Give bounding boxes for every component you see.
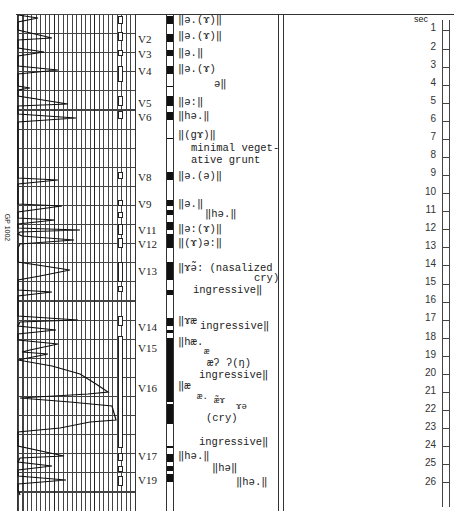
scale-tick-label: 3 bbox=[418, 59, 436, 70]
recording-id-label: GP 1002 bbox=[4, 214, 11, 242]
transcription: ‖ə.‖ bbox=[178, 48, 203, 59]
scale-tick-label: 22 bbox=[418, 403, 436, 414]
transcription: ‖ɤæ bbox=[178, 316, 197, 327]
time-scale bbox=[442, 20, 450, 507]
event-box bbox=[118, 262, 123, 282]
transcription: ‖ə.(ə)‖ bbox=[178, 171, 222, 182]
vocalization-label: V13 bbox=[138, 265, 157, 277]
vocalization-label: V12 bbox=[138, 238, 157, 250]
event-box bbox=[118, 466, 123, 472]
event-box bbox=[118, 50, 123, 56]
scale-tick-label: 25 bbox=[418, 457, 436, 468]
scale-tick-label: 23 bbox=[418, 421, 436, 432]
event-box bbox=[118, 32, 123, 41]
vocalization-label: V16 bbox=[138, 382, 157, 394]
transcription-note: ative grunt bbox=[191, 155, 260, 166]
transcription-note: cry) bbox=[254, 273, 279, 284]
transcription: ə‖ bbox=[214, 79, 227, 90]
scale-tick-label: 21 bbox=[418, 385, 436, 396]
transcription: ‖hə.‖ bbox=[236, 477, 268, 488]
event-box bbox=[118, 336, 123, 448]
scale-tick-label: 24 bbox=[418, 439, 436, 450]
event-box bbox=[118, 200, 123, 206]
transcription: ‖hə.‖ bbox=[178, 111, 210, 122]
transcription: ‖(gɤ)‖ bbox=[178, 130, 216, 141]
event-box bbox=[118, 238, 123, 248]
scale-tick-label: 9 bbox=[418, 167, 436, 178]
scale-tick-label: 14 bbox=[418, 258, 436, 269]
event-box bbox=[118, 66, 123, 82]
vocalization-label: V15 bbox=[138, 342, 157, 354]
scale-tick-label: 11 bbox=[418, 204, 436, 215]
transcription: ‖ə.(ɤ) bbox=[178, 64, 216, 75]
vocalization-label: V9 bbox=[138, 198, 151, 210]
transcription: ‖ə.(ɤ)‖ bbox=[178, 15, 222, 26]
transcription-note: ingressive‖ bbox=[199, 437, 268, 448]
voicing-bar bbox=[166, 14, 174, 511]
transcription-note: minimal veget- bbox=[191, 143, 279, 154]
transcription: ‖ə:(ɤ)‖ bbox=[178, 224, 222, 235]
transcription: ɤə bbox=[236, 402, 247, 413]
transcription: æ. bbox=[197, 392, 208, 403]
transcription: ‖hə.‖ bbox=[205, 209, 237, 220]
transcription: ‖ə.(ɤ)‖ bbox=[178, 31, 222, 42]
transcription-note: ingressive‖ bbox=[199, 370, 268, 381]
vocalization-label: V6 bbox=[138, 111, 151, 123]
event-box bbox=[118, 111, 123, 119]
vocalization-label: V14 bbox=[138, 321, 157, 333]
transcription: ‖æ bbox=[178, 381, 191, 392]
event-box bbox=[118, 476, 123, 486]
vocalization-label: V11 bbox=[138, 224, 157, 236]
scale-tick-label: 15 bbox=[418, 276, 436, 287]
scale-tick-label: 2 bbox=[418, 41, 436, 52]
event-box bbox=[118, 96, 123, 106]
column-divider bbox=[278, 14, 284, 511]
vocalization-label: V8 bbox=[138, 171, 151, 183]
transcription: ‖(ɤ)ə:‖ bbox=[178, 238, 222, 249]
transcription: ‖hə‖ bbox=[212, 463, 237, 474]
transcription-note: (cry) bbox=[206, 413, 238, 424]
scale-tick-label: 12 bbox=[418, 222, 436, 233]
scale-tick-label: 16 bbox=[418, 294, 436, 305]
event-box bbox=[118, 316, 123, 326]
transcription: æʔ ʔ(ŋ) bbox=[207, 358, 251, 369]
vocalization-label: V5 bbox=[138, 97, 151, 109]
scale-tick-label: 5 bbox=[418, 95, 436, 106]
scale-tick-label: 10 bbox=[418, 186, 436, 197]
event-box bbox=[118, 453, 123, 461]
transcription: æ̃ɤ bbox=[214, 396, 225, 407]
scale-tick-label: 26 bbox=[418, 476, 436, 487]
scale-tick-label: 6 bbox=[418, 113, 436, 124]
transcription: ‖ə:‖ bbox=[178, 97, 203, 108]
event-box bbox=[118, 16, 123, 24]
scale-tick-label: 1 bbox=[418, 22, 436, 33]
vocalization-label: V3 bbox=[138, 48, 151, 60]
scale-tick-label: 19 bbox=[418, 349, 436, 360]
scale-tick-label: 17 bbox=[418, 312, 436, 323]
event-box bbox=[118, 286, 123, 292]
vocalization-label: V4 bbox=[138, 65, 151, 77]
scale-tick-label: 4 bbox=[418, 77, 436, 88]
transcription: ‖hæ. bbox=[178, 337, 203, 348]
transcription: ‖ə.‖ bbox=[178, 199, 203, 210]
vocalization-label: V2 bbox=[138, 33, 151, 45]
transcription-note: ingressive‖ bbox=[200, 321, 269, 332]
scale-tick-label: 7 bbox=[418, 131, 436, 142]
vocalization-label: V17 bbox=[138, 450, 157, 462]
scale-tick-label: 8 bbox=[418, 149, 436, 160]
scale-tick-label: 18 bbox=[418, 331, 436, 342]
scale-tick-label: 20 bbox=[418, 367, 436, 378]
scale-tick-label: 13 bbox=[418, 240, 436, 251]
transcription-note: ingressive‖ bbox=[193, 285, 262, 296]
event-box bbox=[118, 212, 123, 218]
vocalization-label: V19 bbox=[138, 474, 157, 486]
transcription: ‖hə.‖ bbox=[178, 451, 210, 462]
event-box bbox=[118, 224, 123, 235]
event-box bbox=[118, 172, 123, 179]
